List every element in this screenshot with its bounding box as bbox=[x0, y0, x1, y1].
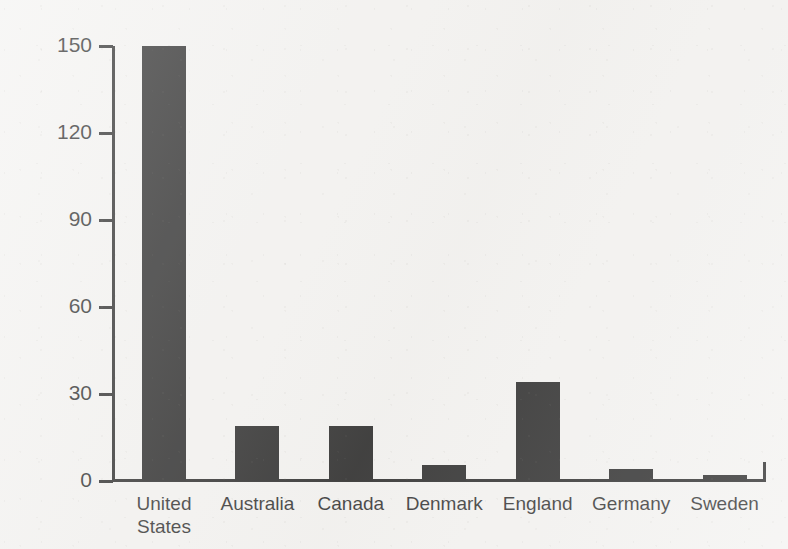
y-tick-mark bbox=[99, 45, 113, 48]
bar bbox=[329, 426, 373, 481]
y-tick-mark bbox=[99, 480, 113, 483]
bar bbox=[516, 382, 560, 481]
y-tick-mark bbox=[99, 132, 113, 135]
bar bbox=[609, 469, 653, 481]
x-category-label: Sweden bbox=[665, 492, 785, 515]
y-tick-mark bbox=[99, 306, 113, 309]
bar bbox=[142, 46, 186, 481]
plot-area bbox=[112, 46, 766, 481]
y-tick-label: 120 bbox=[34, 120, 92, 144]
y-tick-mark bbox=[99, 393, 113, 396]
y-tick-label: 90 bbox=[34, 207, 92, 231]
bar bbox=[422, 465, 466, 481]
y-tick-label: 150 bbox=[34, 33, 92, 57]
y-tick-label: 30 bbox=[34, 381, 92, 405]
bar-chart-figure: Gonorrhea Rates (per 100,000 persons) 03… bbox=[0, 0, 788, 549]
y-tick-mark bbox=[99, 219, 113, 222]
bar bbox=[235, 426, 279, 481]
y-tick-label: 60 bbox=[34, 294, 92, 318]
bar bbox=[703, 475, 747, 481]
y-tick-label: 0 bbox=[34, 468, 92, 492]
